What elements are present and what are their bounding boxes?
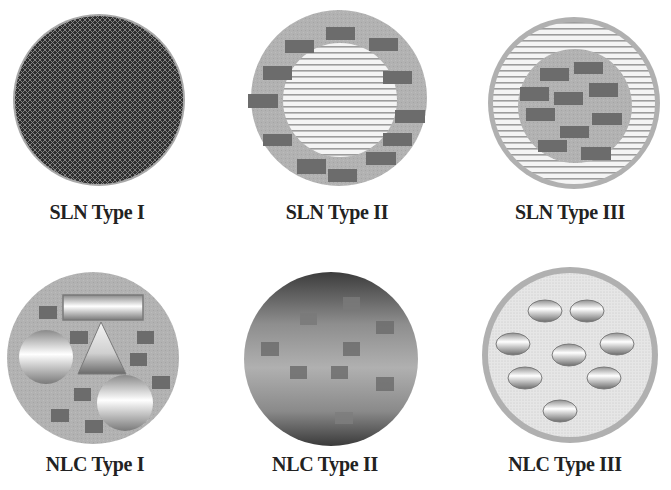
label-nlc-type-1: NLC Type I <box>0 453 195 476</box>
label-nlc-type-2: NLC Type II <box>225 453 425 476</box>
nlc-type-3-particle <box>482 267 658 443</box>
crystal-rectangle <box>63 295 143 320</box>
sln-type-2-particle <box>248 10 427 186</box>
label-sln-type-2: SLN Type II <box>237 201 437 224</box>
label-nlc-type-3: NLC Type III <box>465 453 665 476</box>
lipid-nanoparticle-diagram <box>0 0 671 490</box>
label-sln-type-3: SLN Type III <box>470 201 670 224</box>
nlc-type-2-particle <box>244 272 418 446</box>
nlc-type-1-particle <box>7 272 179 444</box>
crystal-circle-left <box>19 330 73 384</box>
crystal-circle-right <box>97 375 153 431</box>
sln-type-3-particle <box>488 17 660 189</box>
label-sln-type-1: SLN Type I <box>0 201 197 224</box>
sln-type-1-particle <box>13 14 185 186</box>
